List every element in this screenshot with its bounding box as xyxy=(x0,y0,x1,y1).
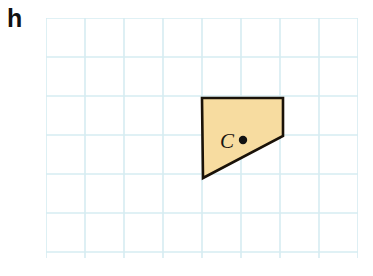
figure-layer: C xyxy=(46,18,358,258)
point-label-c: C xyxy=(220,129,235,153)
point-dot-c xyxy=(239,136,247,144)
grid-area: C xyxy=(46,18,358,258)
exercise-label: h xyxy=(7,6,22,31)
exercise-canvas: h C xyxy=(0,0,373,276)
